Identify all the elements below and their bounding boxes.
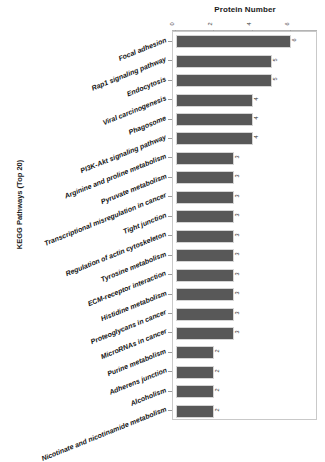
bar (176, 327, 234, 340)
bar-value-label: 3 (230, 175, 243, 178)
category-label-slot: Endocytosis (0, 75, 166, 85)
bar (176, 346, 214, 359)
category-label-slot: Focal adhesion (0, 36, 166, 46)
bar (176, 74, 272, 87)
bar (176, 210, 234, 223)
bar (176, 405, 214, 418)
category-label-slot: Purine metabolism (0, 347, 166, 357)
category-label-slot: Arginine and proline metabolism (0, 152, 166, 162)
bar-value-label: 3 (230, 253, 243, 256)
x-axis-tick-label: 2 (207, 17, 213, 31)
category-label-slot: Rap1 signaling pathway (0, 55, 166, 65)
category-label-slot: MicroRNAs in cancer (0, 327, 166, 337)
bar-value-label: 2 (211, 369, 224, 372)
bar (176, 132, 253, 145)
category-label-slot: Adherens junction (0, 366, 166, 376)
category-label-slot: Histidine metabolism (0, 289, 166, 299)
category-label: Nicotinate and nicotinamide metabolism (40, 406, 167, 462)
bar-value-label: 4 (249, 97, 262, 100)
bar (176, 385, 214, 398)
bar-value-label: 3 (230, 330, 243, 333)
category-label: Alcoholism (130, 386, 168, 407)
bar (176, 230, 234, 243)
category-label: Phagosome (128, 114, 167, 135)
bar-value-label: 3 (230, 291, 243, 294)
bar-value-label: 5 (268, 58, 281, 61)
bar-value-label: 3 (230, 155, 243, 158)
bar-value-label: 2 (211, 389, 224, 392)
bar-value-label: 2 (211, 350, 224, 353)
category-label-slot: Nicotinate and nicotinamide metabolism (0, 405, 166, 415)
plot-area: 65544433333333332222 (172, 31, 317, 420)
bar-value-label: 3 (230, 214, 243, 217)
bar (176, 249, 234, 262)
category-label: Rap1 signaling pathway (91, 55, 168, 91)
x-axis-tick-label: 0 (169, 17, 175, 31)
x-axis-tick-label: 6 (284, 17, 290, 31)
category-label-slot: Transcriptional misregulation in cancer (0, 191, 166, 201)
bar-value-label: 3 (230, 311, 243, 314)
bar-value-label: 5 (268, 78, 281, 81)
bar-value-label: 3 (230, 233, 243, 236)
category-label-slot: Regulation of actin cytoskeleton (0, 230, 166, 240)
category-label-slot: Phagosome (0, 114, 166, 124)
category-label-slot: Proteoglycans in cancer (0, 308, 166, 318)
category-label-slot: Pyruvate metabolism (0, 172, 166, 182)
bar (176, 152, 234, 165)
category-label-slot: Tight junction (0, 211, 166, 221)
category-label-slot: Alcoholism (0, 386, 166, 396)
bar-value-label: 3 (230, 194, 243, 197)
bar (176, 366, 214, 379)
category-label-slot: PI3K-Akt signaling pathway (0, 133, 166, 143)
category-label-slot: Viral carcinogenesis (0, 94, 166, 104)
category-label-slot: ECM-receptor interaction (0, 269, 166, 279)
bar (176, 308, 234, 321)
bar (176, 35, 291, 48)
bar (176, 269, 234, 282)
bar-value-label: 3 (230, 272, 243, 275)
bar (176, 288, 234, 301)
x-axis-tick-label: 4 (246, 17, 252, 31)
chart-title: Protein Number (172, 5, 318, 14)
bar (176, 113, 253, 126)
bar-value-label: 6 (288, 39, 301, 42)
bar (176, 171, 234, 184)
bar-value-label: 2 (211, 408, 224, 411)
bar (176, 94, 253, 107)
bar (176, 191, 234, 204)
category-label-slot: Tyrosine metabolism (0, 250, 166, 260)
bar-value-label: 4 (249, 116, 262, 119)
bar (176, 55, 272, 68)
